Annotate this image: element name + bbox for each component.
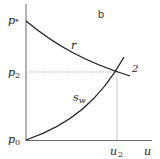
- intersection-label: 2: [131, 63, 138, 74]
- x-tick-u2: u2: [110, 145, 123, 159]
- x-axis-label: u: [144, 145, 151, 158]
- y-tick-pstar: p*: [8, 14, 19, 27]
- panel-label: b: [98, 8, 104, 20]
- curve-r-label: r: [71, 39, 77, 52]
- curve-sw-label: sw: [73, 91, 86, 105]
- diagram-figure: b p* p2 p0 u2 u r sw 2: [0, 0, 160, 159]
- curve-r: [26, 21, 130, 76]
- y-tick-p0: p0: [8, 133, 20, 147]
- y-tick-p2: p2: [8, 66, 20, 80]
